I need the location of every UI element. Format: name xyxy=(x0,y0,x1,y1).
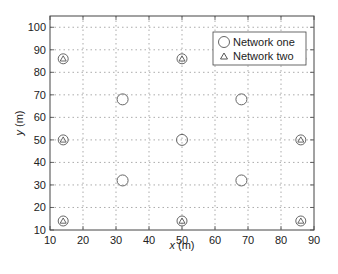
x-tick-label: 90 xyxy=(308,234,320,246)
y-tick-label: 100 xyxy=(28,21,46,33)
x-tick-label: 70 xyxy=(242,234,254,246)
marker-triangle xyxy=(179,218,185,223)
y-tick-labels: 102030405060708090100 xyxy=(28,21,46,236)
network-one-circle-icon xyxy=(236,94,247,105)
y-tick-label: 90 xyxy=(34,44,46,56)
network-two-marker-icon xyxy=(58,216,68,226)
marker-triangle xyxy=(60,56,66,61)
scatter-chart: 102030405060708090 102030405060708090100… xyxy=(0,0,338,274)
x-tick-label: 60 xyxy=(209,234,221,246)
x-tick-label: 30 xyxy=(110,234,122,246)
y-tick-label: 10 xyxy=(34,224,46,236)
y-tick-label: 80 xyxy=(34,66,46,78)
legend-label-network-two: Network two xyxy=(233,50,294,62)
network-one-circle-icon xyxy=(236,175,247,186)
y-tick-label: 20 xyxy=(34,201,46,213)
marker-triangle xyxy=(60,137,66,142)
y-tick-label: 70 xyxy=(34,89,46,101)
network-one-circle-icon xyxy=(117,94,128,105)
y-tick-label: 40 xyxy=(34,156,46,168)
marker-triangle xyxy=(60,218,66,223)
y-tick-label: 30 xyxy=(34,179,46,191)
x-tick-label: 20 xyxy=(77,234,89,246)
legend: Network one Network two xyxy=(213,32,306,65)
x-axis-label: x (m) xyxy=(168,239,194,251)
network-two-marker-icon xyxy=(58,54,68,64)
legend-label-network-one: Network one xyxy=(233,36,295,48)
marker-triangle xyxy=(179,56,185,61)
network-two-marker-icon xyxy=(296,135,306,145)
y-axis-label: y (m) xyxy=(13,110,25,136)
y-tick-label: 50 xyxy=(34,134,46,146)
marker-triangle xyxy=(298,137,304,142)
marker-triangle xyxy=(298,218,304,223)
x-tick-label: 80 xyxy=(275,234,287,246)
network-one-circle-icon xyxy=(117,175,128,186)
network-two-marker-icon xyxy=(296,216,306,226)
x-tick-label: 40 xyxy=(143,234,155,246)
y-tick-label: 60 xyxy=(34,111,46,123)
